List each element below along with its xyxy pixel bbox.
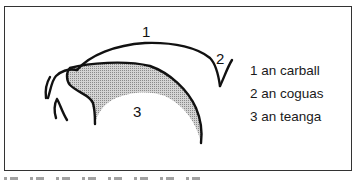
- legend-text: an coguas: [261, 86, 323, 101]
- lower-lip-line: [55, 99, 67, 120]
- legend-number: 2: [250, 86, 258, 101]
- label-back: 2: [216, 50, 224, 67]
- legend: 1 an carball 2 an coguas 3 an teanga: [250, 59, 324, 128]
- legend-text: an teanga: [261, 109, 321, 124]
- label-tongue: 3: [133, 103, 141, 120]
- legend-number: 1: [250, 63, 258, 78]
- label-upper: 1: [142, 23, 150, 40]
- legend-item: 1 an carball: [250, 59, 324, 82]
- legend-text: an carball: [261, 63, 320, 78]
- legend-item: 3 an teanga: [250, 105, 324, 128]
- legend-number: 3: [250, 109, 258, 124]
- clipped-caption: [4, 175, 204, 181]
- legend-item: 2 an coguas: [250, 82, 324, 105]
